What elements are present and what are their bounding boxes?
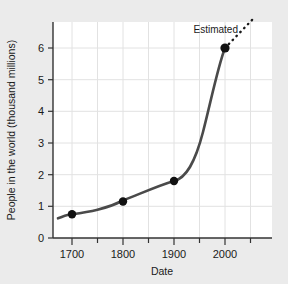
- population-line-chart: 0 1 2 3 4 5 6 1700 1800 1900 2000 Dat: [0, 0, 288, 284]
- ytick-label-0: 0: [38, 232, 44, 244]
- ytick-label-5: 5: [38, 74, 44, 86]
- xtick-label-1700: 1700: [60, 248, 84, 260]
- y-axis-title: People in the world (thousand millions): [5, 40, 17, 220]
- ytick-label-2: 2: [38, 169, 44, 181]
- ytick-label-3: 3: [38, 137, 44, 149]
- ytick-label-4: 4: [38, 105, 44, 117]
- data-point-1900: [170, 177, 178, 185]
- ytick-label-1: 1: [38, 200, 44, 212]
- data-point-2000: [220, 43, 229, 52]
- xtick-label-1900: 1900: [162, 248, 186, 260]
- estimated-annotation-label: Estimated: [194, 24, 238, 35]
- plot-area-background: [53, 22, 272, 238]
- data-point-1700: [68, 210, 76, 218]
- ytick-label-6: 6: [38, 42, 44, 54]
- xtick-label-1800: 1800: [111, 248, 135, 260]
- chart-figure: 0 1 2 3 4 5 6 1700 1800 1900 2000 Dat: [0, 0, 288, 284]
- xtick-label-2000: 2000: [213, 248, 237, 260]
- x-axis-title: Date: [151, 265, 173, 277]
- data-point-1800: [119, 197, 127, 205]
